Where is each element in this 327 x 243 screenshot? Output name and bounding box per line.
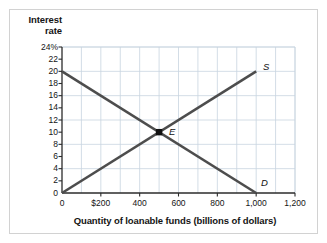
supply-curve-label: S [263, 62, 269, 72]
x-axis-title: Quantity of loanable funds (billions of … [40, 215, 310, 226]
x-tick-label: 1,200 [275, 199, 315, 208]
x-axis-tick-labels: 0$2004006008001,0001,200 [0, 0, 327, 243]
x-tick-label: 400 [120, 199, 160, 208]
x-tick-label: $200 [81, 199, 121, 208]
x-tick-label: 600 [159, 199, 199, 208]
x-tick-label: 0 [42, 199, 82, 208]
x-tick-label: 1,000 [236, 199, 276, 208]
chart-figure: Interest rate 024681012141618202224% 0$2… [0, 0, 327, 243]
equilibrium-point-label: E [169, 127, 175, 137]
x-tick-label: 800 [197, 199, 237, 208]
demand-curve-label: D [261, 178, 268, 188]
